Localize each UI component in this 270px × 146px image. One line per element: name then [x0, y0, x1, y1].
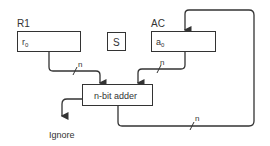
- bus-label-ac: n: [160, 59, 164, 67]
- r1-content: r0: [22, 37, 28, 48]
- r1-content-sub: 0: [25, 42, 28, 48]
- ac-content: a0: [156, 37, 164, 48]
- ac-label: AC: [151, 19, 165, 29]
- ac-content-sub: 0: [161, 42, 164, 48]
- ac-register: a0: [151, 31, 216, 52]
- s-label: S: [113, 37, 120, 48]
- r1-label: R1: [17, 19, 30, 29]
- r1-register: r0: [17, 31, 81, 52]
- bus-label-feedback: n: [195, 115, 199, 123]
- ignore-label: Ignore: [49, 131, 75, 140]
- wiring: [0, 0, 270, 146]
- bus-label-r1: n: [78, 61, 82, 69]
- n-bit-adder: n-bit adder: [82, 84, 153, 106]
- s-register: S: [107, 32, 126, 51]
- adder-label: n-bit adder: [94, 91, 137, 101]
